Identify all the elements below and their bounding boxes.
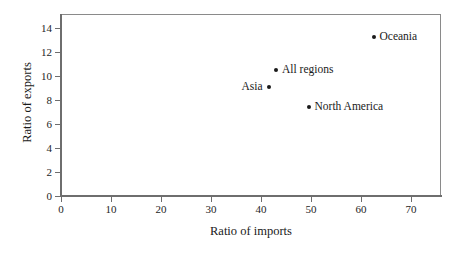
x-tick-label: 40: [246, 203, 276, 216]
x-tick-label: 70: [396, 203, 426, 216]
chart-canvas: 010203040506070 02468101214 OceaniaAll r…: [0, 0, 456, 254]
y-tick-mark: [55, 124, 61, 125]
x-tick-label: 30: [196, 203, 226, 216]
x-tick-mark: [161, 196, 162, 202]
y-axis-title: Ratio of exports: [20, 28, 35, 178]
x-tick-mark: [361, 196, 362, 202]
y-tick-mark: [55, 196, 61, 197]
x-tick-mark: [211, 196, 212, 202]
data-point[interactable]: [307, 105, 311, 109]
y-tick-mark: [55, 172, 61, 173]
x-tick-label: 50: [296, 203, 326, 216]
data-point-label: Asia: [241, 80, 262, 92]
x-tick-label: 60: [346, 203, 376, 216]
x-tick-mark: [411, 196, 412, 202]
x-axis-line: [61, 195, 442, 197]
y-tick-mark: [55, 28, 61, 29]
x-tick-label: 20: [146, 203, 176, 216]
x-tick-label: 10: [96, 203, 126, 216]
data-point[interactable]: [372, 35, 376, 39]
y-tick-mark: [55, 148, 61, 149]
x-tick-mark: [111, 196, 112, 202]
y-tick-mark: [55, 100, 61, 101]
data-point-label: North America: [315, 100, 384, 112]
y-tick-mark: [55, 52, 61, 53]
y-tick-label: 0: [26, 190, 52, 202]
x-tick-mark: [61, 196, 62, 202]
x-axis-title: Ratio of imports: [61, 224, 441, 239]
data-point-label: Oceania: [380, 30, 418, 42]
data-point-label: All regions: [282, 63, 333, 75]
data-point[interactable]: [267, 85, 271, 89]
y-tick-mark: [55, 76, 61, 77]
x-tick-mark: [311, 196, 312, 202]
y-axis-line: [60, 14, 62, 196]
x-tick-mark: [261, 196, 262, 202]
x-tick-label: 0: [46, 203, 76, 216]
